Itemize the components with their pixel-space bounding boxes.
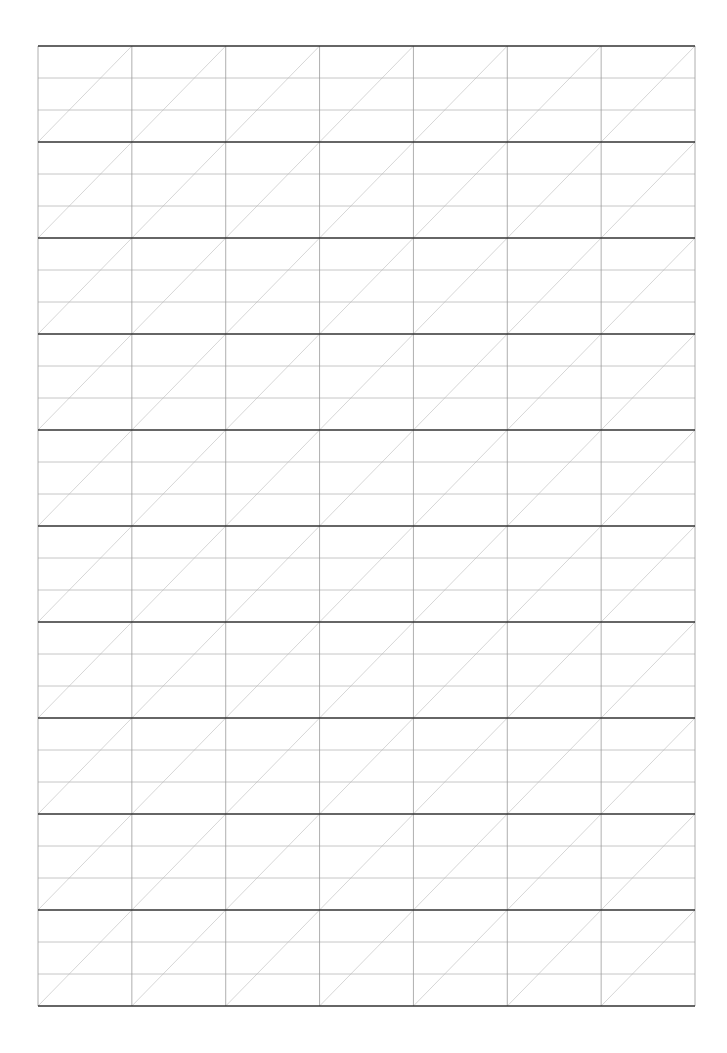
diagonal-guide-line xyxy=(507,526,601,622)
diagonal-guide-line xyxy=(601,430,695,526)
diagonal-guide-line xyxy=(38,718,132,814)
diagonal-guide-line xyxy=(132,46,226,142)
diagonal-guide-line xyxy=(413,622,507,718)
diagonal-guide-line xyxy=(226,622,320,718)
diagonal-guide-line xyxy=(507,334,601,430)
diagonal-guide-line xyxy=(601,334,695,430)
diagonal-guide-line xyxy=(38,430,132,526)
diagonal-guide-line xyxy=(132,910,226,1006)
diagonal-guide-line xyxy=(601,142,695,238)
diagonal-guide-line xyxy=(38,46,132,142)
diagonal-guide-line xyxy=(413,718,507,814)
diagonal-guide-line xyxy=(226,334,320,430)
diagonal-guide-line xyxy=(601,46,695,142)
diagonal-guide-line xyxy=(38,814,132,910)
diagonal-guide-line xyxy=(507,718,601,814)
diagonal-guide-line xyxy=(601,718,695,814)
diagonal-guide-line xyxy=(413,334,507,430)
diagonal-guide-line xyxy=(38,334,132,430)
diagonal-guide-line xyxy=(413,526,507,622)
diagonal-guide-line xyxy=(38,622,132,718)
diagonal-guide-line xyxy=(507,46,601,142)
diagonal-guide-line xyxy=(601,526,695,622)
diagonal-guide-line xyxy=(507,622,601,718)
diagonal-guide-line xyxy=(132,334,226,430)
diagonal-guide-line xyxy=(38,910,132,1006)
diagonal-guide-line xyxy=(601,238,695,334)
diagonal-guide-line xyxy=(507,430,601,526)
diagonal-guide-line xyxy=(413,430,507,526)
diagonal-guide-line xyxy=(601,910,695,1006)
diagonal-guide-line xyxy=(601,814,695,910)
diagonal-guide-line xyxy=(132,622,226,718)
diagonal-guide-line xyxy=(320,910,414,1006)
diagonal-guide-line xyxy=(226,718,320,814)
diagonal-guide-line xyxy=(226,142,320,238)
diagonal-guide-line xyxy=(320,622,414,718)
diagonal-guide-line xyxy=(413,46,507,142)
diagonal-guide-line xyxy=(132,718,226,814)
diagonal-guide-line xyxy=(413,814,507,910)
diagonal-guide-line xyxy=(226,430,320,526)
diagonal-guide-line xyxy=(38,238,132,334)
diagonal-guide-line xyxy=(132,526,226,622)
diagonal-guide-line xyxy=(320,334,414,430)
diagonal-guide-line xyxy=(507,142,601,238)
diagonal-guide-line xyxy=(226,526,320,622)
diagonal-guide-line xyxy=(132,430,226,526)
diagonal-guide-line xyxy=(507,910,601,1006)
diagonal-guide-line xyxy=(320,430,414,526)
practice-grid-sheet xyxy=(0,0,727,1053)
diagonal-guide-line xyxy=(226,238,320,334)
diagonal-guide-line xyxy=(507,814,601,910)
diagonal-guide-line xyxy=(226,910,320,1006)
diagonal-guide-line xyxy=(320,718,414,814)
diagonal-guide-line xyxy=(320,142,414,238)
diagonal-guide-line xyxy=(601,622,695,718)
diagonal-guide-line xyxy=(320,526,414,622)
diagonal-guide-line xyxy=(320,46,414,142)
diagonal-guide-line xyxy=(132,142,226,238)
diagonal-guide-line xyxy=(132,238,226,334)
diagonal-guide-line xyxy=(507,238,601,334)
diagonal-guide-line xyxy=(38,142,132,238)
diagonal-guide-line xyxy=(413,142,507,238)
diagonal-guide-line xyxy=(226,46,320,142)
diagonal-guide-line xyxy=(320,814,414,910)
diagonal-guide-line xyxy=(132,814,226,910)
diagonal-guide-line xyxy=(226,814,320,910)
diagonal-guide-line xyxy=(413,238,507,334)
diagonal-guide-line xyxy=(320,238,414,334)
diagonal-guide-line xyxy=(413,910,507,1006)
diagonal-guide-line xyxy=(38,526,132,622)
